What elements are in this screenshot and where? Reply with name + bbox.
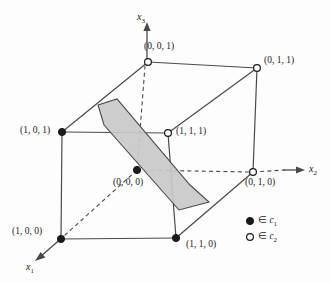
vertex-001-marker[interactable] [145,59,152,66]
vertex-110-marker[interactable] [172,234,179,241]
vertex-010-label: (0, 1, 0) [245,178,275,188]
axis-x2-label-sub: 2 [313,169,317,177]
axis-x3-label-sub: 3 [141,17,145,25]
vertex-001-label: (0, 0, 1) [144,42,174,52]
vertex-100-label: (1, 0, 0) [12,227,42,237]
axis-dashed-extensions [253,170,285,172]
axis-x2-dashed [253,170,285,172]
edge-011-111 [168,68,257,133]
legend-class-2-sub: 2 [274,236,278,244]
legend-markers-group [246,217,253,240]
vertex-000-label: (0, 0, 0) [113,178,143,188]
vertex-011-label: (0, 1, 1) [264,56,294,66]
vertex-100-marker[interactable] [57,235,64,242]
axis-x1-label: x1 [26,262,34,275]
vertex-111-marker[interactable] [165,130,172,137]
vertex-101-label: (1, 0, 1) [20,126,50,136]
axis-x2-arrowhead [296,167,305,174]
vertex-110-label: (1, 1, 0) [186,240,216,250]
legend-class-1-sub: 1 [274,220,278,228]
edge-001-011 [148,62,257,68]
edge-101-100 [61,132,62,239]
axis-x3-label: x3 [137,12,145,25]
vertex-111-label: (1, 1, 1) [176,127,206,137]
vertex-010-marker[interactable] [250,169,257,176]
legend-class-2-symbol: ∈ [258,231,267,241]
axis-x2-label: x2 [309,164,317,177]
legend-class-1-symbol: ∈ [258,215,267,225]
legend-class-2-text: ∈ c2 [258,232,277,244]
edge-011-010 [253,68,257,172]
legend-class-1-marker [246,217,253,224]
vertex-000-marker[interactable] [133,166,140,173]
legend-class-2-marker [247,234,254,241]
legend-class-1-text: ∈ c1 [258,216,277,228]
edge-100-110 [61,238,176,239]
vertex-101-marker[interactable] [58,128,65,135]
axis-x1-label-sub: 1 [30,267,34,275]
vertex-011-marker[interactable] [254,65,261,72]
